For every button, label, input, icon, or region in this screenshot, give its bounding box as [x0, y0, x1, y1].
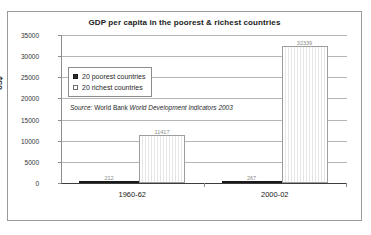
- ytick-label-30000: 30000: [0, 53, 39, 60]
- ytick-label-5000: 5000: [0, 158, 39, 165]
- xtick-mark-end: [346, 183, 347, 187]
- ytick-label-25000: 25000: [0, 74, 39, 81]
- legend-swatch-richest-icon: [73, 85, 78, 90]
- bar-poorest-2000-02[interactable]: 267: [222, 181, 282, 183]
- bar-value-poorest-2000-02: 267: [247, 175, 256, 181]
- legend-item-richest[interactable]: 20 richest countries: [73, 82, 145, 93]
- source-publication: World Development Indicators 2003: [130, 104, 233, 111]
- source-label: Source:: [70, 104, 92, 111]
- bar-value-richest-2000-02: 32339: [297, 40, 312, 46]
- legend: 20 poorest countries 20 richest countrie…: [68, 67, 152, 97]
- plot-wrapper: US$ 35000 30000 25000 20000 15000 10000 …: [8, 12, 361, 220]
- ytick-label-0: 0: [0, 180, 39, 187]
- xtick-label-2000-02: 2000-02: [204, 190, 347, 199]
- ytick-label-10000: 10000: [0, 137, 39, 144]
- legend-item-poorest[interactable]: 20 poorest countries: [73, 71, 145, 82]
- legend-label-poorest: 20 poorest countries: [82, 73, 145, 80]
- ytick-label-15000: 15000: [0, 116, 39, 123]
- legend-label-richest: 20 richest countries: [82, 84, 143, 91]
- chart-frame: GDP per capita in the poorest & richest …: [7, 11, 362, 221]
- bar-poorest-1960-62[interactable]: 212: [79, 181, 139, 183]
- bar-value-poorest-1960-62: 212: [104, 175, 113, 181]
- ytick-label-35000: 35000: [0, 32, 39, 39]
- xtick-label-1960-62: 1960-62: [61, 190, 204, 199]
- source-publisher: World Bank: [94, 104, 127, 111]
- source-note: Source: World Bank World Development Ind…: [70, 104, 233, 111]
- ytick-label-20000: 20000: [0, 95, 39, 102]
- bar-value-richest-1960-62: 11417: [155, 129, 170, 135]
- legend-swatch-poorest-icon: [73, 74, 78, 79]
- xtick-mark-divider: [204, 183, 205, 187]
- bar-richest-1960-62[interactable]: 11417: [139, 135, 185, 183]
- bar-richest-2000-02[interactable]: 32339: [282, 46, 328, 183]
